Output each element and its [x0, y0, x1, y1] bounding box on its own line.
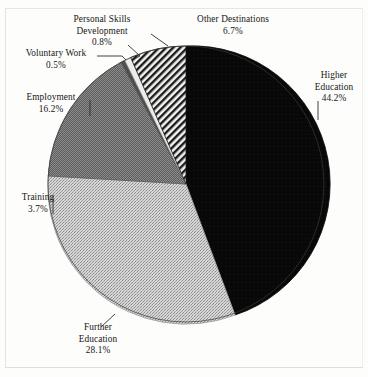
slice-label-line2: Education [79, 334, 118, 344]
slice-label-voluntary-work: Voluntary Work 0.5% [4, 48, 108, 71]
slice-label-line1: Further [84, 322, 112, 332]
slice-label-further-education: Further Education 28.1% [52, 322, 144, 357]
slice-percent: 6.7% [168, 26, 298, 38]
slice-percent: 44.2% [302, 93, 366, 105]
slice-label-line2: Development [76, 26, 127, 36]
slice-label-line1: Other Destinations [197, 14, 269, 24]
slice-label-line1: Voluntary Work [26, 48, 86, 58]
slice-label-higher-education: Higher Education 44.2% [302, 70, 366, 105]
slice-label-line2: Education [315, 82, 354, 92]
slice-label-personal-skills-development: Personal Skills Development 0.8% [46, 14, 158, 49]
slice-percent: 16.2% [2, 104, 100, 116]
slice-label-line1: Employment [26, 92, 75, 102]
slice-percent: 0.5% [4, 60, 108, 72]
slice-percent: 3.7% [4, 204, 72, 216]
slice-label-employment: Employment 16.2% [2, 92, 100, 115]
slice-label-line1: Training [22, 192, 55, 202]
slice-label-line1: Higher [321, 70, 347, 80]
slice-label-line1: Personal Skills [73, 14, 130, 24]
slice-label-training: Training 3.7% [4, 192, 72, 215]
slice-percent: 28.1% [52, 345, 144, 357]
slice-label-other-destinations: Other Destinations 6.7% [168, 14, 298, 37]
chart-page: Personal Skills Development 0.8% Volunta… [0, 0, 368, 377]
